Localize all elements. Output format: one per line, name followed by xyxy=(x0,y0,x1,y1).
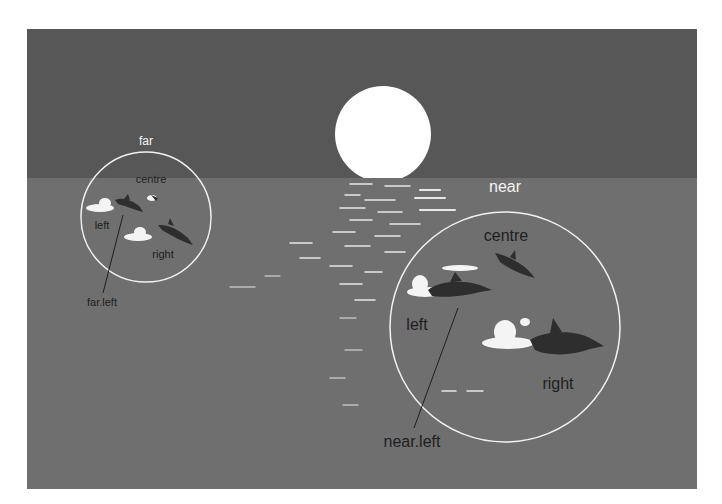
near-left-label: left xyxy=(406,316,428,333)
setting-sun xyxy=(335,86,431,182)
dolphin-naming-diagram: far centre left right far.left near cent… xyxy=(0,0,722,504)
near-centre-label: centre xyxy=(484,227,529,244)
far-title: far xyxy=(139,134,153,148)
far-centre-label: centre xyxy=(136,173,167,185)
far-left-label: left xyxy=(95,219,110,231)
far-left-pointer-label: far.left xyxy=(87,296,117,308)
far-right-label: right xyxy=(152,248,173,260)
near-title: near xyxy=(489,178,522,195)
sea xyxy=(27,178,697,489)
near-right-label: right xyxy=(542,375,574,392)
near-left-pointer-label: near.left xyxy=(384,433,441,450)
